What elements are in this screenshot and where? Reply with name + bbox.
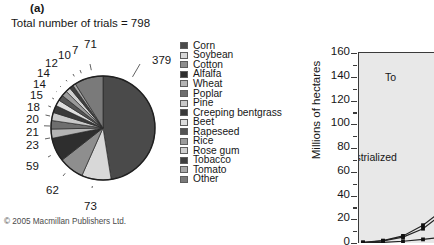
panel-a-subtitle: Total number of trials = 798: [11, 17, 150, 29]
pie-slice-value: 10: [58, 49, 71, 61]
pie-slice-value: 21: [26, 126, 39, 138]
pie-slice-value: 62: [46, 184, 59, 196]
series-label-industrialized: Industrialized: [358, 151, 397, 163]
pie-slice-value: 20: [26, 113, 39, 125]
panel-b: (b) Millions of hectares 160140120100806…: [290, 0, 434, 245]
panel-a: (a) Total number of trials = 798 3797362…: [0, 0, 290, 245]
pie-leader-line: [46, 115, 51, 116]
y-axis-tick-mark: [351, 219, 357, 220]
line-chart-plot-area: To Industrialized: [358, 52, 434, 243]
series-data-point: [421, 238, 425, 242]
y-axis-tick-mark: [351, 101, 357, 102]
legend-swatch-icon: [180, 157, 188, 164]
pie-leader-line: [60, 86, 61, 87]
y-axis-tick-label: 60: [324, 164, 350, 176]
legend-swatch-icon: [180, 61, 188, 68]
legend-swatch-icon: [180, 90, 188, 97]
pie-leader-line: [133, 64, 141, 77]
pie-slice-value: 18: [27, 101, 40, 113]
y-axis-tick-mark: [351, 124, 357, 125]
y-axis-minor-tick-mark: [353, 184, 357, 185]
y-axis-minor-tick-mark: [353, 65, 357, 66]
series-data-point: [361, 241, 365, 243]
series-data-point: [381, 241, 385, 244]
y-axis-tick-mark: [351, 243, 357, 244]
pie-leader-line: [52, 98, 54, 99]
legend-swatch-icon: [180, 42, 188, 49]
pie-leader-line: [90, 64, 91, 70]
y-axis-tick-label: 0: [324, 235, 350, 245]
y-axis-tick-label: 120: [324, 93, 350, 105]
y-axis-tick-label: 100: [324, 116, 350, 128]
pie-leader-line: [63, 173, 65, 176]
pie-slice-value: 23: [26, 139, 39, 151]
pie-slice-value: 7: [72, 44, 78, 56]
y-axis-tick-labels: 160140120100806040200: [324, 0, 350, 245]
pie-slice: [103, 76, 155, 179]
legend-swatch-icon: [180, 109, 188, 116]
pie-slice-value: 71: [84, 38, 97, 50]
series-data-point: [421, 227, 425, 231]
pie-slices: [51, 76, 155, 180]
legend-swatch-icon: [180, 80, 188, 87]
line-chart-svg: [359, 53, 434, 243]
series-data-point: [401, 235, 405, 239]
legend-swatch-icon: [180, 71, 188, 78]
series-label-total: To: [385, 71, 396, 83]
y-axis-tick-label: 160: [324, 45, 350, 57]
y-axis-minor-tick-mark: [353, 136, 357, 137]
series-data-point: [401, 239, 405, 243]
pie-slice-value: 12: [45, 57, 58, 69]
pie-slice-value: 379: [152, 54, 171, 66]
legend-item-label: Other: [193, 174, 218, 184]
y-axis-title: Millions of hectares: [310, 40, 322, 180]
y-axis-tick-label: 140: [324, 69, 350, 81]
y-axis-minor-tick-mark: [353, 160, 357, 161]
pie-slice-value: 15: [30, 89, 43, 101]
legend-swatch-icon: [180, 119, 188, 126]
y-axis-minor-tick-mark: [353, 89, 357, 90]
y-axis-tick-label: 40: [324, 188, 350, 200]
y-axis-minor-tick-mark: [353, 112, 357, 113]
copyright-notice: © 2005 Macmillan Publishers Ltd.: [4, 217, 126, 226]
series-data-point: [421, 223, 425, 227]
legend-swatch-icon: [180, 166, 188, 173]
pie-leader-line: [73, 74, 74, 76]
pie-slice-value: 14: [33, 78, 46, 90]
legend-swatch-icon: [180, 138, 188, 145]
pie-legend: CornSoybeanCottonAlfalfaWheatPoplarPineC…: [180, 41, 292, 184]
y-axis-tick-label: 20: [324, 211, 350, 223]
y-axis-tick-mark: [351, 148, 357, 149]
y-axis-minor-tick-mark: [353, 207, 357, 208]
pie-leader-line: [48, 156, 51, 158]
y-axis-tick-mark: [351, 172, 357, 173]
pie-leader-line: [66, 80, 67, 81]
panel-a-letter: (a): [30, 2, 44, 14]
pie-slice-value: 59: [26, 160, 39, 172]
legend-item: Other: [180, 175, 292, 185]
legend-swatch-icon: [180, 176, 188, 183]
legend-swatch-icon: [180, 147, 188, 154]
y-axis-tick-mark: [351, 196, 357, 197]
pie-leader-line: [48, 106, 51, 107]
y-axis-tick-mark: [351, 53, 357, 54]
y-axis-tick-label: 80: [324, 140, 350, 152]
y-axis-minor-tick-mark: [353, 231, 357, 232]
legend-swatch-icon: [180, 52, 188, 59]
legend-swatch-icon: [180, 128, 188, 135]
legend-swatch-icon: [180, 100, 188, 107]
y-axis-tick-mark: [351, 77, 357, 78]
pie-slice-value: 73: [84, 200, 97, 212]
pie-leader-line: [45, 138, 50, 139]
pie-leader-line: [80, 70, 81, 73]
